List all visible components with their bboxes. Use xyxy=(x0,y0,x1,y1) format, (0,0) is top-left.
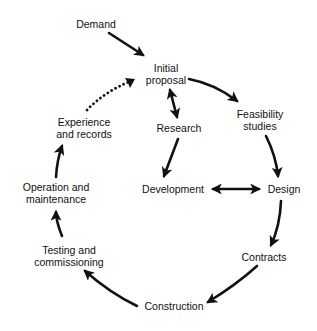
arrows-layer xyxy=(0,0,317,331)
node-research: Research xyxy=(157,122,202,134)
node-development: Development xyxy=(142,183,204,195)
arrow-initial-proposal-to-feasibility xyxy=(189,79,237,101)
node-testing-and-commissioning: Testing and commissioning xyxy=(34,244,103,268)
arrow-initial-proposal-research xyxy=(170,90,177,117)
arrow-experience-to-initial-proposal-dotted xyxy=(87,81,131,110)
node-experience-and-records: Experience and records xyxy=(56,116,111,140)
node-operation-and-maintenance: Operation and maintenance xyxy=(23,181,90,205)
project-lifecycle-diagram: Demand Initial proposal Feasibility stud… xyxy=(0,0,317,331)
node-design: Design xyxy=(268,183,301,195)
arrow-operation-to-experience xyxy=(56,146,62,177)
node-initial-proposal: Initial proposal xyxy=(146,62,186,86)
arrow-testing-to-operation xyxy=(56,212,62,236)
arrow-research-to-development xyxy=(164,139,178,176)
arrow-design-to-contracts xyxy=(271,201,281,245)
node-demand: Demand xyxy=(76,18,116,30)
arrow-contracts-to-construction xyxy=(208,266,257,302)
node-contracts: Contracts xyxy=(242,251,287,263)
node-construction: Construction xyxy=(145,300,204,312)
arrow-construction-to-testing xyxy=(85,271,137,306)
arrow-demand-to-initial-proposal xyxy=(109,33,143,55)
arrow-feasibility-to-design xyxy=(266,136,278,176)
node-feasibility-studies: Feasibility studies xyxy=(237,108,284,132)
